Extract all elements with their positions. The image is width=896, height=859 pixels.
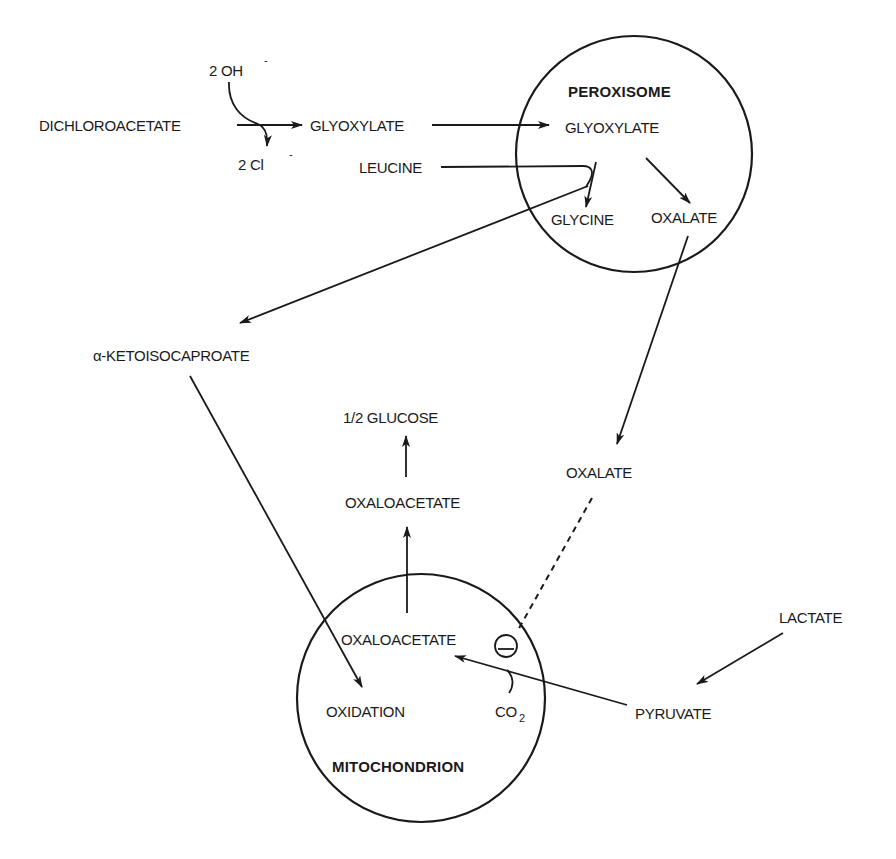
oxalate-export-arrow	[617, 236, 688, 444]
co2-subscript: 2	[519, 712, 525, 724]
mitochondrion-label: MITOCHONDRION	[332, 758, 464, 775]
hydroxide-charge: -	[264, 54, 268, 66]
leucine-label: LEUCINE	[359, 159, 422, 176]
half-glucose-label: 1/2 GLUCOSE	[343, 409, 438, 426]
oxalate-cytosol-label: OXALATE	[566, 464, 632, 481]
ketoisocaproate-to-oxidation-arrow	[190, 376, 362, 687]
oxalate-peroxisome-label: OXALATE	[651, 209, 717, 226]
co2-label: CO	[495, 703, 517, 720]
lactate-label: LACTATE	[779, 609, 842, 626]
oxaloacetate-cytosol-label: OXALOACETATE	[345, 494, 460, 511]
peroxisome-membrane	[516, 36, 752, 272]
chloride-label: 2 Cl	[238, 156, 263, 173]
glyoxylate-to-oxalate-arrow	[646, 158, 690, 203]
inhibition-circle-icon	[495, 635, 517, 657]
pyruvate-label: PYRUVATE	[635, 705, 712, 722]
metabolic-pathway-diagram: PEROXISOME MITOCHONDRION DICHLOROACETATE…	[0, 0, 896, 859]
chloride-charge: -	[289, 148, 293, 160]
glyoxylate-cytosol-label: GLYOXYLATE	[310, 117, 404, 134]
ketoisocaproate-label: α-KETOISOCAPROATE	[93, 347, 250, 364]
leucine-to-ketoisocaproate-arrow	[240, 186, 588, 323]
oxaloacetate-mito-label: OXALOACETATE	[341, 631, 456, 648]
lactate-to-pyruvate-arrow	[697, 633, 783, 684]
oxidation-label: OXIDATION	[326, 703, 405, 720]
mitochondrion-membrane	[297, 574, 545, 822]
hydroxide-label: 2 OH	[209, 62, 243, 79]
co2-in-curve	[507, 670, 513, 693]
glyoxylate-peroxisome-label: GLYOXYLATE	[565, 119, 659, 136]
dichloroacetate-label: DICHLOROACETATE	[39, 117, 181, 134]
glycine-label: GLYCINE	[551, 211, 614, 228]
peroxisome-label: PEROXISOME	[568, 83, 671, 100]
oxalate-inhibition-dashed	[518, 498, 592, 630]
hydroxide-in-curve	[229, 82, 267, 146]
